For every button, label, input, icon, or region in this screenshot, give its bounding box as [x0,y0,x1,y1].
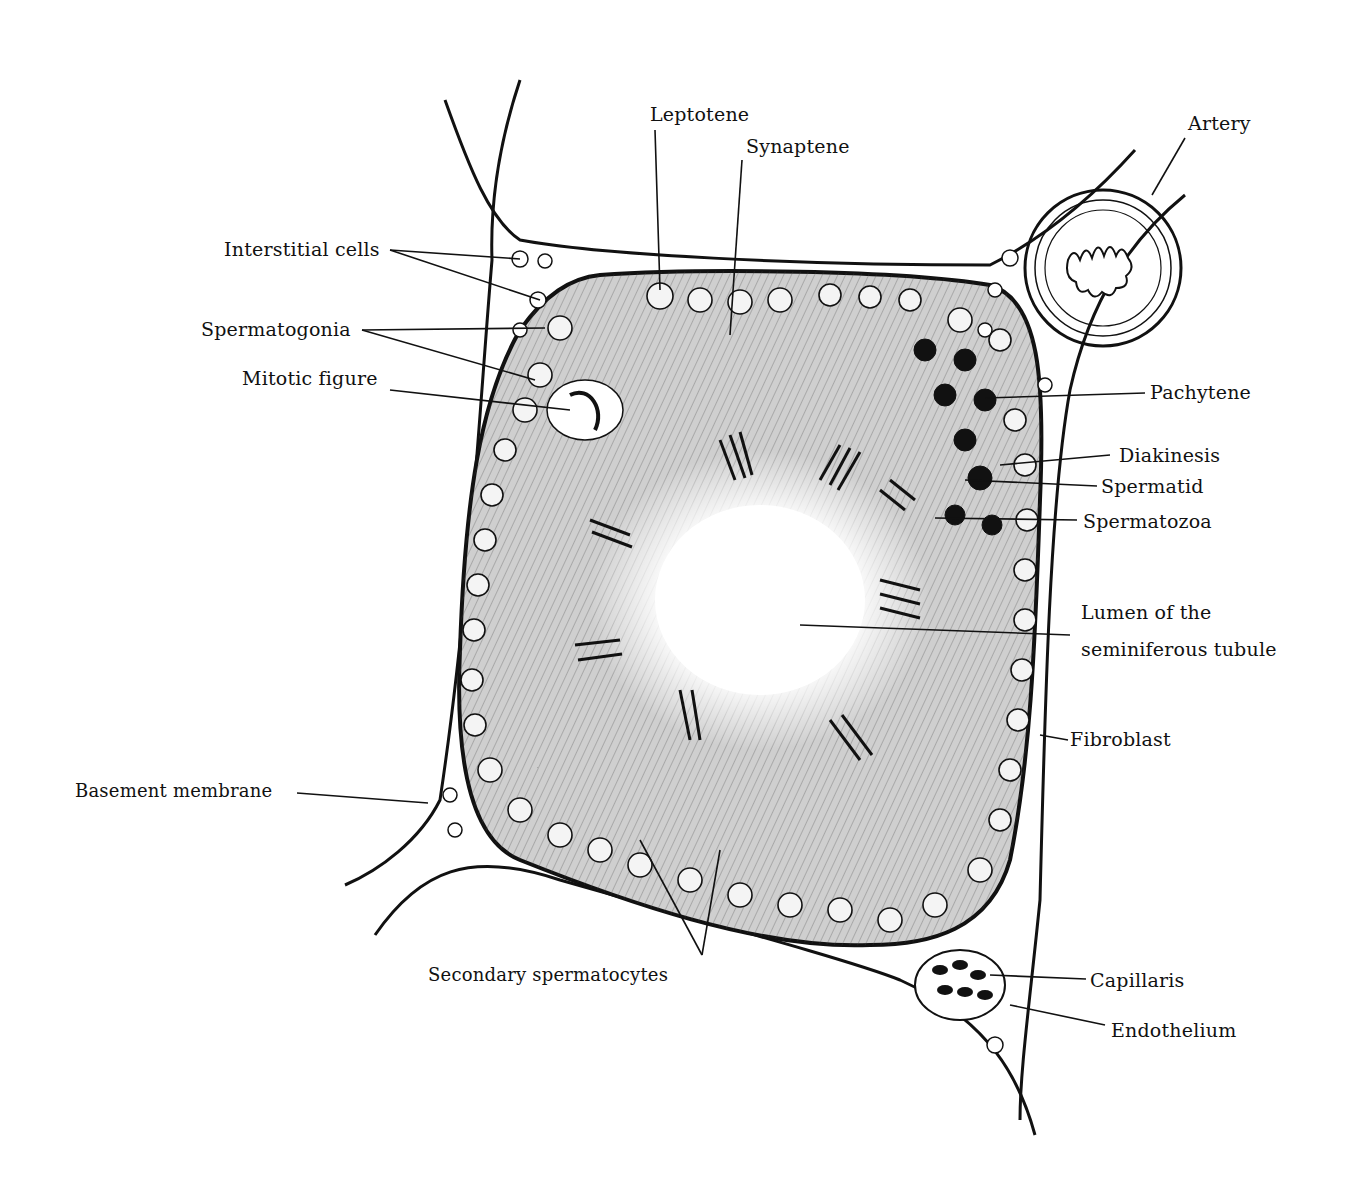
label-fibroblast: Fibroblast [1070,730,1171,749]
label-capillaris: Capillaris [1090,971,1185,990]
label-leptotene: Leptotene [650,105,749,124]
artery [1025,190,1181,346]
label-lumen-line2: seminiferous tubule [1081,640,1277,659]
label-spermatid: Spermatid [1101,477,1204,496]
label-lumen-line1: Lumen of the [1081,603,1211,622]
mitotic-figure [547,380,623,440]
label-mitotic-figure: Mitotic figure [242,369,378,388]
label-basement-membrane: Basement membrane [75,782,272,800]
label-pachytene: Pachytene [1150,383,1251,402]
label-spermatogonia: Spermatogonia [201,320,351,339]
label-interstitial-cells: Interstitial cells [224,240,380,259]
label-synaptene: Synaptene [746,137,850,156]
label-artery: Artery [1188,114,1251,133]
label-diakinesis: Diakinesis [1119,446,1220,465]
label-secondary-spermatocytes: Secondary spermatocytes [428,966,668,984]
diagram-drawing [0,0,1366,1197]
label-endothelium: Endothelium [1111,1021,1236,1040]
capillaris [915,950,1005,1020]
seminiferous-tubule-diagram: Leptotene Synaptene Artery Interstitial … [0,0,1366,1197]
label-spermatozoa: Spermatozoa [1083,512,1212,531]
